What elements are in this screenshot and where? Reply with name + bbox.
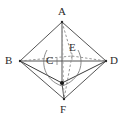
point-D-marker bbox=[105, 60, 107, 62]
geometry-figure: A B C D E F bbox=[0, 0, 124, 122]
point-F-marker bbox=[63, 98, 65, 100]
point-B-marker bbox=[19, 60, 21, 62]
vertex-label-f: F bbox=[60, 104, 66, 115]
point-G-marker bbox=[60, 81, 64, 85]
vertex-label-b: B bbox=[5, 55, 12, 66]
vertex-label-a: A bbox=[58, 6, 66, 17]
edge-A-B bbox=[20, 22, 62, 61]
vertex-label-c: C bbox=[46, 55, 53, 66]
vertex-label-d: D bbox=[110, 55, 118, 66]
edge-B-F bbox=[20, 61, 64, 99]
point-A-marker bbox=[61, 21, 63, 23]
edge-D-G bbox=[62, 61, 106, 83]
vertex-label-e: E bbox=[69, 42, 76, 53]
